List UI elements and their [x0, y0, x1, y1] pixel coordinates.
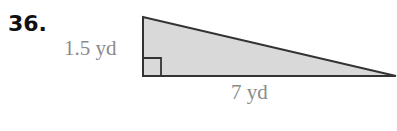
base-label: 7 yd: [231, 80, 268, 105]
right-triangle-figure: [0, 0, 397, 131]
height-label: 1.5 yd: [64, 36, 117, 61]
triangle-shape: [143, 17, 396, 76]
